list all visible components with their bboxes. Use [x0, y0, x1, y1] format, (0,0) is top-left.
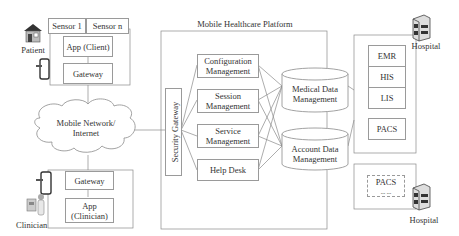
his-box: HIS: [368, 66, 406, 88]
service-management-box: Service Management: [197, 124, 259, 148]
help-desk-box: Help Desk: [197, 159, 259, 181]
lis-label: LIS: [381, 93, 394, 103]
app-clinician-box: App (Clinician): [65, 198, 114, 223]
clinician-label: Clinician: [16, 220, 52, 230]
lis-box: LIS: [368, 87, 406, 109]
emr-box: EMR: [368, 45, 406, 67]
patient-label: Patient: [16, 45, 50, 55]
pacs-2-box: PACS ... ...: [367, 175, 405, 197]
sensor-1-label: Sensor 1: [52, 21, 82, 31]
ellipsis-label: ... ...: [368, 187, 404, 197]
sensor-n-label: Sensor n: [93, 21, 123, 31]
phone-icon: [36, 57, 50, 81]
hospital-building-icon: [410, 14, 432, 42]
house-icon: [23, 23, 43, 43]
account-data-management-db: Account Data Management: [282, 142, 348, 166]
mobile-network-cloud: Mobile Network/ Internet: [40, 116, 132, 140]
his-label: HIS: [380, 72, 394, 82]
pacs-2-label: PACS: [368, 177, 404, 187]
clinician-gateway-box: Gateway: [65, 171, 114, 190]
db-label-line2: Management: [293, 154, 337, 164]
security-gateway-label: Security Gateway: [165, 88, 182, 176]
app-client-label: App (Client): [66, 42, 109, 52]
sensor-1-box: Sensor 1: [48, 18, 86, 34]
session-management-box: Session Management: [197, 89, 259, 113]
medical-data-management-db: Medical Data Management: [282, 82, 348, 106]
sensor-n-box: Sensor n: [86, 18, 129, 34]
clinician-icon: [26, 193, 48, 217]
patient-gateway-label: Gateway: [73, 69, 103, 79]
network-label-line1: Mobile Network/: [57, 118, 116, 128]
app-client-box: App (Client): [63, 36, 113, 57]
module-label-line1: Session: [215, 91, 241, 101]
network-label-line2: Internet: [73, 128, 99, 138]
clinician-gateway-label: Gateway: [74, 176, 104, 186]
app-clinician-label-line1: App: [82, 201, 97, 211]
db-label-line1: Account Data: [292, 144, 339, 154]
configuration-management-box: Configuration Management: [197, 54, 259, 78]
module-label-line1: Configuration: [204, 56, 252, 66]
app-clinician-label-line2: (Clinician): [71, 211, 108, 221]
security-gateway-box: Security Gateway: [165, 88, 182, 176]
module-label-line1: Help Desk: [210, 165, 246, 175]
module-label-line2: Management: [206, 101, 250, 111]
hospital-2-label: Hospital: [406, 215, 442, 225]
hospital-1-label: Hospital: [408, 41, 444, 51]
module-label-line2: Management: [206, 136, 250, 146]
db-label-line2: Management: [293, 94, 337, 104]
pacs-label: PACS: [377, 124, 397, 134]
emr-label: EMR: [378, 51, 396, 61]
platform-title: Mobile Healthcare Platform: [190, 19, 300, 29]
module-label-line2: Management: [206, 66, 250, 76]
hospital-building-icon: [410, 183, 432, 211]
patient-gateway-box: Gateway: [63, 63, 113, 84]
pacs-box: PACS: [368, 118, 406, 140]
db-label-line1: Medical Data: [292, 84, 338, 94]
module-label-line1: Service: [215, 126, 241, 136]
